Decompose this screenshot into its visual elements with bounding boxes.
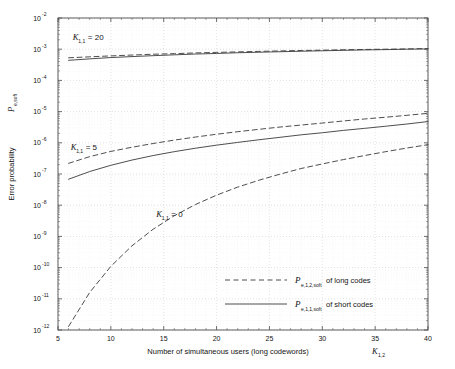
y-tick-exponent: -6 [42, 136, 47, 142]
y-tick-mantissa: 10 [33, 327, 41, 334]
legend-text-0: of long codes [326, 276, 371, 285]
y-tick-mantissa: 10 [33, 233, 41, 240]
legend-symbol-1: P [294, 299, 301, 309]
y-tick-exponent: -10 [42, 261, 49, 267]
y-tick-exponent: -4 [42, 74, 47, 80]
x-tick-labels: 510152025303540 [56, 335, 432, 342]
y-tick-exponent: -7 [42, 167, 47, 173]
legend-text-1: of short codes [326, 300, 373, 309]
annotation-subscript-1: 1,1 [76, 148, 83, 154]
annotation-subscript-0: 1,1 [78, 38, 85, 44]
x-tick-label: 25 [266, 335, 274, 342]
y-axis-subscript: e,soft [12, 93, 18, 106]
y-tick-exponent: -11 [42, 292, 49, 298]
legend-symbol-0: P [294, 275, 301, 285]
annotation-text-0: = 20 [88, 33, 104, 42]
figure-container: 51015202530354010-210-310-410-510-610-71… [0, 0, 455, 369]
x-axis-title: Number of simultaneous users (long codew… [147, 346, 385, 358]
y-tick-exponent: -3 [42, 43, 47, 49]
y-tick-mantissa: 10 [33, 171, 41, 178]
plot-background [58, 18, 428, 330]
x-tick-label: 30 [318, 335, 326, 342]
x-tick-label: 35 [371, 335, 379, 342]
y-tick-mantissa: 10 [33, 108, 41, 115]
legend-subscript-0: e,1,2,soft [301, 282, 322, 288]
x-tick-label: 5 [56, 335, 60, 342]
x-tick-label: 20 [213, 335, 221, 342]
y-tick-mantissa: 10 [33, 202, 41, 209]
x-axis-subscript: 1,2 [378, 352, 385, 358]
legend-subscript-1: e,1,1,soft [301, 306, 322, 312]
y-tick-mantissa: 10 [33, 139, 41, 146]
y-tick-mantissa: 10 [33, 15, 41, 22]
annotation-text-2: = 0 [171, 210, 183, 219]
annotation-subscript-2: 1,1 [162, 215, 169, 221]
x-axis-title-text: Number of simultaneous users (long codew… [147, 347, 309, 356]
y-axis-symbol: P [6, 107, 16, 113]
x-tick-label: 15 [160, 335, 168, 342]
y-tick-labels: 10-210-310-410-510-610-710-810-910-1010-… [33, 11, 49, 333]
y-tick-exponent: -5 [42, 105, 47, 111]
x-tick-label: 40 [424, 335, 432, 342]
y-tick-exponent: -12 [42, 323, 49, 329]
y-tick-exponent: -9 [42, 230, 47, 236]
error-probability-chart: 51015202530354010-210-310-410-510-610-71… [0, 0, 455, 369]
y-axis-title-text: Error probability [7, 147, 16, 200]
y-tick-mantissa: 10 [33, 46, 41, 53]
x-tick-label: 10 [107, 335, 115, 342]
y-tick-mantissa: 10 [33, 77, 41, 84]
y-tick-exponent: -2 [42, 11, 47, 17]
y-tick-mantissa: 10 [33, 264, 41, 271]
y-tick-exponent: -8 [42, 199, 47, 205]
annotation-text-1: = 5 [86, 143, 98, 152]
y-axis-title: Error probabilityPe,soft [6, 93, 18, 200]
y-tick-mantissa: 10 [33, 295, 41, 302]
